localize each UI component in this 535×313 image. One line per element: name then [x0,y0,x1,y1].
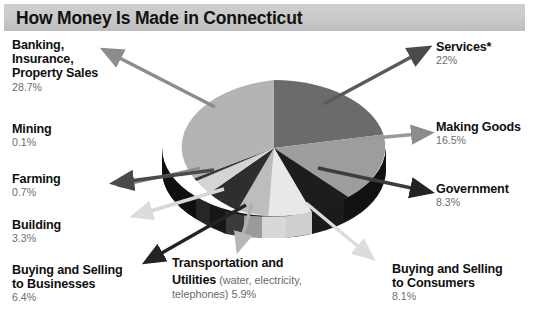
label-transportation-line2: Utilities [172,273,216,287]
label-services: Services* 22% [436,40,535,67]
label-banking-value: 28.7% [12,81,162,94]
label-buying-consumers-line2: to Consumers [392,276,534,290]
label-buying-businesses-value: 6.4% [12,291,172,304]
label-banking: Banking, Insurance, Property Sales 28.7% [12,38,162,94]
label-services-name: Services* [436,40,535,54]
label-making-goods-value: 16.5% [436,134,535,147]
arrow-services [324,48,428,104]
label-farming: Farming 0.7% [12,172,132,199]
label-services-value: 22% [436,54,535,67]
label-government-name: Government [436,182,535,196]
label-mining: Mining 0.1% [12,122,132,149]
label-farming-name: Farming [12,172,132,186]
label-building-name: Building [12,218,132,232]
label-buying-consumers-value: 8.1% [392,290,534,303]
label-making-goods-name: Making Goods [436,120,535,134]
label-transportation-paren: (water, electricity, [216,274,302,286]
chart-figure: How Money Is Made in Connecticut [0,0,535,313]
label-buying-consumers-line1: Buying and Selling [392,262,534,276]
label-mining-name: Mining [12,122,132,136]
label-banking-line1: Banking, [12,38,162,52]
label-buying-businesses-line1: Buying and Selling [12,263,172,277]
label-banking-line3: Property Sales [12,66,162,80]
label-transportation-line1: Transportation and [172,256,372,270]
label-building-value: 3.3% [12,232,132,245]
label-buying-businesses-line2: to Businesses [12,277,172,291]
label-transportation: Transportation and Utilities (water, ele… [172,256,372,300]
label-mining-value: 0.1% [12,136,132,149]
label-building: Building 3.3% [12,218,132,245]
label-farming-value: 0.7% [12,186,132,199]
label-banking-line2: Insurance, [12,52,162,66]
label-making-goods: Making Goods 16.5% [436,120,535,147]
label-buying-businesses: Buying and Selling to Businesses 6.4% [12,263,172,304]
label-government: Government 8.3% [436,182,535,209]
label-government-value: 8.3% [436,196,535,209]
label-buying-consumers: Buying and Selling to Consumers 8.1% [392,262,534,303]
label-transportation-line3: telephones) 5.9% [172,288,372,300]
